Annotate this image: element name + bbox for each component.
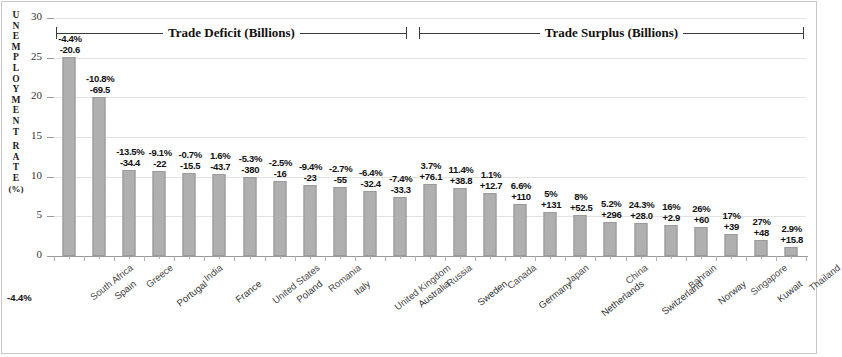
plot-area: 051015202530 -4.4%-20.6-10.8%-69.5-13.5%… [54,18,806,256]
bar-slot[interactable]: 26%+60 [686,18,716,256]
x-axis-minor-tick [189,256,190,259]
y-title-char: N [5,21,27,32]
bar-label-trade-value: +48 [754,227,769,238]
bar-slot[interactable]: -6.4%-32.4 [355,18,385,256]
bar[interactable] [363,191,376,256]
category-label: Japan [564,262,591,287]
x-axis-tick [806,256,807,261]
bar-slot[interactable]: -9.1%-22 [144,18,174,256]
bar-slot[interactable]: -9.4%-23 [295,18,325,256]
bar-label-trade-value: -69.5 [90,84,110,95]
bar[interactable] [123,170,136,256]
bar-slot[interactable]: -10.8%-69.5 [84,18,114,256]
bar-label-trade-value: -15.5 [180,160,200,171]
bar-label-trade-value: -16 [274,168,287,179]
bar-slot[interactable]: 27%+48 [746,18,776,256]
x-axis-minor-tick [400,256,401,259]
x-axis-minor-tick [370,256,371,259]
x-axis-minor-tick [731,256,732,259]
bar-label-percent: 1.6% [210,150,230,161]
y-axis-tick [47,177,54,178]
bar-label-trade-value: +76.1 [420,171,443,182]
bar[interactable] [183,173,196,256]
bar[interactable] [273,181,286,256]
bar[interactable] [393,197,406,256]
category-label: Thailand [807,262,842,293]
bar-slot[interactable]: 16%+2.9 [656,18,686,256]
bar-label-trade-value: +60 [694,214,709,225]
bar-slot[interactable]: -2.5%-16 [265,18,295,256]
bar-slot[interactable]: -0.7%-15.5 [174,18,204,256]
bar-label-trade-value: +39 [724,221,739,232]
bar[interactable] [754,240,767,256]
bar[interactable] [514,204,527,256]
bar-slot[interactable]: 8%+52.5 [565,18,595,256]
y-axis-tick-label: 0 [14,248,42,260]
bar-label-percent: 26% [692,203,710,214]
bar-label-trade-value: -380 [241,164,259,175]
bar-label-trade-value: +28.0 [630,210,653,221]
bar[interactable] [63,57,76,256]
x-axis-minor-tick [340,256,341,259]
y-axis-tick-label: 10 [14,169,42,181]
bar[interactable] [153,171,166,256]
bar-label-trade-value: -32.4 [361,178,381,189]
category-label: Italy [351,278,372,297]
bar[interactable] [454,188,467,256]
bar-slot[interactable]: 6.6%+110 [505,18,535,256]
category-label: Greece [144,262,175,290]
bar[interactable] [724,234,737,256]
bar-label-percent: -13.5% [116,146,144,157]
y-title-unit: (%) [5,184,27,195]
bar-slot[interactable]: -13.5%-34.4 [114,18,144,256]
bar[interactable] [634,223,647,256]
bar-slot[interactable]: 5%+131 [535,18,565,256]
bar[interactable] [423,184,436,256]
bar-label-trade-value: -20.6 [60,44,80,55]
bar[interactable] [213,174,226,256]
bar-slot[interactable]: -7.4%-33.3 [385,18,415,256]
bar-slot[interactable]: 2.9%+15.8 [776,18,806,256]
bar-label-trade-value: +12.7 [480,180,503,191]
bar-slot[interactable]: -2.7%-55 [325,18,355,256]
bar[interactable] [243,177,256,256]
bar[interactable] [333,187,346,256]
bar-label-percent: 5% [544,188,557,199]
bar-slot[interactable]: 1.6%-43.7 [204,18,234,256]
bar-slot[interactable]: 11.4%+38.8 [445,18,475,256]
category-label: Canada [505,262,538,291]
bar[interactable] [694,227,707,256]
bar[interactable] [664,225,677,256]
y-title-char: A [5,152,27,163]
bar[interactable] [484,193,497,256]
bar[interactable] [93,97,106,256]
bar[interactable] [544,212,557,256]
bar-label-percent: -9.4% [299,161,322,172]
bar-label-trade-value: +2.9 [663,212,681,223]
bar-label-percent: -2.7% [329,163,352,174]
bar-slot[interactable]: 17%+39 [716,18,746,256]
bar-label-percent: -9.1% [149,147,172,158]
bar[interactable] [604,222,617,256]
x-axis-line [48,256,808,257]
bar-slot[interactable]: 1.1%+12.7 [475,18,505,256]
bar[interactable] [784,247,797,256]
x-axis-minor-tick [460,256,461,259]
category-label: Kuwait [775,278,804,304]
bar-label-trade-value: +296 [601,209,621,220]
bar-label-trade-value: +131 [541,199,561,210]
bar-label-trade-value: -22 [153,158,166,169]
bar-label-trade-value: -23 [304,172,317,183]
bar-label-percent: 2.9% [782,223,802,234]
y-axis-tick-label: 30 [14,10,42,22]
bar[interactable] [574,215,587,256]
bar[interactable] [303,185,316,256]
bar-slot[interactable]: -4.4%-20.6 [54,18,84,256]
bar-label-percent: -6.4% [359,167,382,178]
bar-slot[interactable]: 24.3%+28.0 [626,18,656,256]
y-axis-tick [47,97,54,98]
bar-slot[interactable]: 5.2%+296 [595,18,625,256]
bar-slot[interactable]: 3.7%+76.1 [415,18,445,256]
category-label: India [202,262,225,283]
bar-slot[interactable]: -5.3%-380 [234,18,264,256]
